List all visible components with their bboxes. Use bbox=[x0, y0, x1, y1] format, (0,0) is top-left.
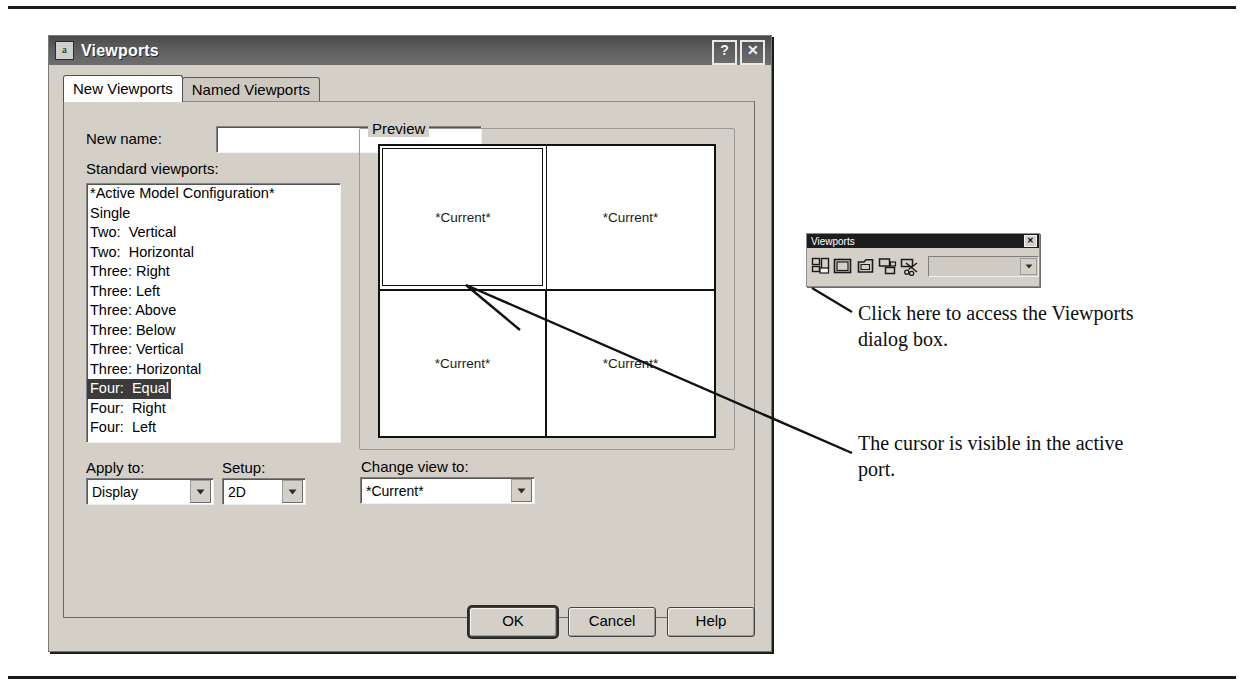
toolbar-title: Viewports bbox=[811, 236, 855, 247]
chevron-down-icon[interactable] bbox=[282, 480, 303, 503]
tab-page-new-viewports: New name: Standard viewports: *Active Mo… bbox=[63, 101, 755, 618]
viewport-scale-select[interactable] bbox=[928, 256, 1039, 277]
preview-group-legend: Preview bbox=[368, 120, 429, 137]
list-item[interactable]: Four: Left bbox=[87, 418, 340, 438]
help-icon[interactable]: ? bbox=[712, 40, 737, 65]
setup-select[interactable]: 2D bbox=[222, 478, 306, 505]
tabstrip: New Viewports Named Viewports bbox=[63, 77, 319, 102]
list-item[interactable]: Four: Right bbox=[87, 399, 340, 419]
list-item[interactable]: Three: Left bbox=[87, 282, 340, 302]
page-rule-bottom bbox=[8, 676, 1236, 679]
toolbar-close-icon[interactable]: ✕ bbox=[1024, 235, 1037, 247]
chevron-down-icon[interactable] bbox=[1020, 258, 1037, 275]
setup-label: Setup: bbox=[222, 459, 265, 476]
preview-viewport-label: *Current* bbox=[435, 356, 491, 371]
tab-named-viewports[interactable]: Named Viewports bbox=[182, 77, 320, 102]
list-item[interactable]: Four: Equal bbox=[87, 379, 340, 399]
preview-viewport-top-left[interactable]: *Current* bbox=[380, 146, 547, 291]
list-item[interactable]: *Active Model Configuration* bbox=[87, 184, 340, 204]
close-icon[interactable]: ✕ bbox=[740, 40, 765, 65]
annotation-cursor: The cursor is visible in the active port… bbox=[858, 430, 1158, 482]
clip-existing-viewport-icon[interactable] bbox=[900, 254, 920, 278]
page-rule-top bbox=[8, 6, 1236, 9]
viewports-dialog: a Viewports ? ✕ New Viewports Named View… bbox=[48, 35, 772, 652]
titlebar-buttons: ? ✕ bbox=[712, 40, 765, 65]
leader-line-click-here bbox=[812, 288, 852, 312]
preview-viewport-label: *Current* bbox=[603, 210, 659, 225]
list-item[interactable]: Two: Horizontal bbox=[87, 243, 340, 263]
list-item[interactable]: Single bbox=[87, 204, 340, 224]
change-view-to-label: Change view to: bbox=[361, 458, 469, 475]
annotation-click-here: Click here to access the Viewports dialo… bbox=[858, 300, 1188, 352]
toolbar-titlebar[interactable]: Viewports ✕ bbox=[807, 234, 1039, 248]
list-item[interactable]: Three: Below bbox=[87, 321, 340, 341]
apply-to-label: Apply to: bbox=[86, 459, 144, 476]
chevron-down-icon[interactable] bbox=[511, 479, 532, 502]
dialog-button-row: OK Cancel Help bbox=[469, 607, 755, 637]
single-viewport-icon[interactable] bbox=[832, 254, 852, 278]
help-button[interactable]: Help bbox=[667, 607, 755, 637]
dialog-body: New Viewports Named Viewports New name: … bbox=[49, 65, 771, 651]
list-item[interactable]: Three: Vertical bbox=[87, 340, 340, 360]
standard-viewports-label: Standard viewports: bbox=[86, 160, 219, 177]
tab-new-viewports[interactable]: New Viewports bbox=[63, 75, 183, 102]
list-item[interactable]: Two: Vertical bbox=[87, 223, 340, 243]
preview-viewport-bottom-left[interactable]: *Current* bbox=[380, 291, 547, 436]
apply-to-value: Display bbox=[87, 484, 190, 500]
display-viewports-dialog-icon[interactable] bbox=[810, 254, 830, 278]
change-view-to-value: *Current* bbox=[361, 483, 511, 499]
preview-viewport-label: *Current* bbox=[603, 356, 659, 371]
list-item[interactable]: Three: Horizontal bbox=[87, 360, 340, 380]
convert-object-to-viewport-icon[interactable] bbox=[877, 254, 897, 278]
list-item[interactable]: Three: Above bbox=[87, 301, 340, 321]
preview-grid[interactable]: *Current* *Current* *Current* *Current* bbox=[378, 144, 716, 438]
setup-value: 2D bbox=[223, 484, 282, 500]
standard-viewports-list[interactable]: *Active Model Configuration*SingleTwo: V… bbox=[86, 183, 341, 443]
apply-to-select[interactable]: Display bbox=[86, 478, 214, 505]
ok-button[interactable]: OK bbox=[469, 607, 557, 637]
preview-group: Preview *Current* *Current* *Current* *C… bbox=[359, 120, 735, 450]
preview-viewport-top-right[interactable]: *Current* bbox=[547, 146, 714, 291]
preview-viewport-label: *Current* bbox=[435, 210, 491, 225]
change-view-to-select[interactable]: *Current* bbox=[360, 477, 535, 504]
viewports-toolbar: Viewports ✕ bbox=[806, 233, 1040, 287]
dialog-title: Viewports bbox=[81, 42, 159, 60]
dialog-titlebar[interactable]: a Viewports ? ✕ bbox=[49, 36, 771, 65]
autocad-app-icon: a bbox=[55, 41, 74, 60]
polygonal-viewport-icon[interactable] bbox=[855, 254, 875, 278]
cancel-button[interactable]: Cancel bbox=[568, 607, 656, 637]
new-name-label: New name: bbox=[86, 130, 162, 147]
list-item[interactable]: Three: Right bbox=[87, 262, 340, 282]
list-item-label: Four: Equal bbox=[87, 379, 171, 399]
preview-viewport-bottom-right[interactable]: *Current* bbox=[547, 291, 714, 436]
toolbar-button-row bbox=[807, 248, 1039, 284]
chevron-down-icon[interactable] bbox=[190, 480, 211, 503]
